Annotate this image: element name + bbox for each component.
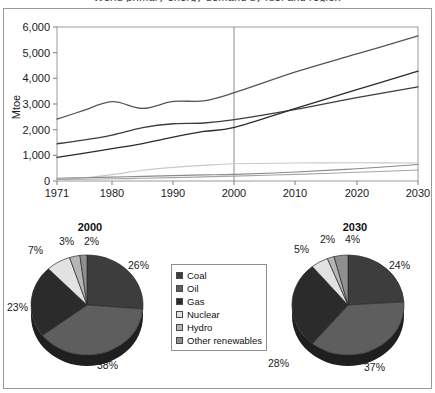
pie-section: 2000 2030 26% 38% 23% 7% 3% 2% 24% 37% 2…: [4, 205, 433, 390]
pie-chart-2030: 24% 37% 28% 5% 2% 4%: [276, 239, 426, 379]
y-tick-0: 0: [44, 175, 50, 187]
y-axis-ticks: [53, 27, 57, 181]
y-tick-5000: 5,000: [22, 47, 50, 59]
legend-swatch-oil: [176, 285, 183, 292]
pie-2030-label-hydro: 2%: [320, 233, 335, 245]
pie-2000-label-hydro: 3%: [59, 235, 74, 247]
y-tick-3000: 3,000: [22, 98, 50, 110]
legend-item-gas: Gas: [176, 295, 262, 307]
x-tick-1971: 1971: [45, 187, 69, 199]
y-tick-1000: 1,000: [22, 149, 50, 161]
pie-2000-label-coal: 26%: [128, 259, 149, 271]
x-tick-1990: 1990: [161, 187, 185, 199]
x-axis-ticks: [57, 181, 418, 185]
pie-2000-label-oil: 38%: [97, 359, 118, 371]
pie-2030-label-nuclear: 5%: [294, 243, 309, 255]
x-tick-1980: 1980: [100, 187, 124, 199]
y-axis-label: Mtoe: [10, 95, 22, 119]
x-tick-2000: 2000: [222, 187, 246, 199]
figure-frame: 6,000 5,000 4,000 3,000 2,000 1,000 0 Mt…: [3, 8, 432, 389]
pie-2000-slices: [31, 255, 143, 366]
legend-label-nuclear: Nuclear: [187, 309, 220, 320]
pie-2000-label-gas: 23%: [7, 301, 28, 313]
legend-label-gas: Gas: [187, 296, 204, 307]
legend-item-coal: Coal: [176, 269, 262, 281]
legend-swatch-nuclear: [176, 311, 183, 318]
legend-label-oil: Oil: [187, 283, 199, 294]
line-chart: 6,000 5,000 4,000 3,000 2,000 1,000 0 Mt…: [4, 9, 433, 199]
y-tick-2000: 2,000: [22, 124, 50, 136]
y-tick-6000: 6,000: [22, 21, 50, 33]
pie-chart-2000: 26% 38% 23% 7% 3% 2%: [15, 239, 165, 379]
legend-swatch-gas: [176, 298, 183, 305]
legend-item-nuclear: Nuclear: [176, 308, 262, 320]
pie-title-2000: 2000: [45, 221, 135, 233]
legend-label-coal: Coal: [187, 270, 207, 281]
pie-2030-slices: [292, 255, 404, 366]
legend-item-hydro: Hydro: [176, 321, 262, 333]
legend-item-oil: Oil: [176, 282, 262, 294]
pie-2000-label-other: 2%: [84, 235, 99, 247]
x-tick-2020: 2020: [345, 187, 369, 199]
legend-swatch-other-renewables: [176, 337, 183, 344]
y-tick-4000: 4,000: [22, 72, 50, 84]
plot-area: [57, 27, 418, 181]
x-tick-2030: 2030: [406, 187, 430, 199]
pie-2030-label-other: 4%: [345, 233, 360, 245]
line-chart-svg: 6,000 5,000 4,000 3,000 2,000 1,000 0 Mt…: [4, 9, 433, 199]
pie-title-2030: 2030: [310, 221, 400, 233]
legend-label-other-renewables: Other renewables: [187, 335, 262, 346]
pie-2030-label-oil: 37%: [364, 361, 385, 373]
figure-title: World primary energy demand by fuel and …: [0, 0, 435, 2]
legend-swatch-hydro: [176, 324, 183, 331]
pie-2030-label-gas: 28%: [268, 357, 289, 369]
legend-label-hydro: Hydro: [187, 322, 212, 333]
legend-swatch-coal: [176, 272, 183, 279]
chart-legend: Coal Oil Gas Nuclear Hydro Other renewab…: [171, 264, 267, 351]
legend-item-other-renewables: Other renewables: [176, 334, 262, 346]
x-tick-2010: 2010: [283, 187, 307, 199]
pie-2000-label-nuclear: 7%: [28, 244, 43, 256]
pie-2030-label-coal: 24%: [389, 259, 410, 271]
